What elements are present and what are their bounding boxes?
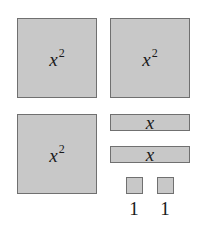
unit-tile-label: 1 <box>156 199 174 218</box>
x-squared-tile: x2 <box>17 114 97 194</box>
x-squared-tile: x2 <box>17 18 97 98</box>
unit-tile-label: 1 <box>125 199 143 218</box>
unit-tile <box>126 177 143 194</box>
tile-label: x2 <box>49 143 64 165</box>
tile-label: x <box>146 145 154 164</box>
x-bar-tile: x <box>110 146 190 163</box>
tile-label: x <box>146 113 154 132</box>
tile-label: x2 <box>142 47 157 69</box>
unit-tile <box>157 177 174 194</box>
x-bar-tile: x <box>110 114 190 131</box>
tile-label: x2 <box>49 47 64 69</box>
x-squared-tile: x2 <box>110 18 190 98</box>
